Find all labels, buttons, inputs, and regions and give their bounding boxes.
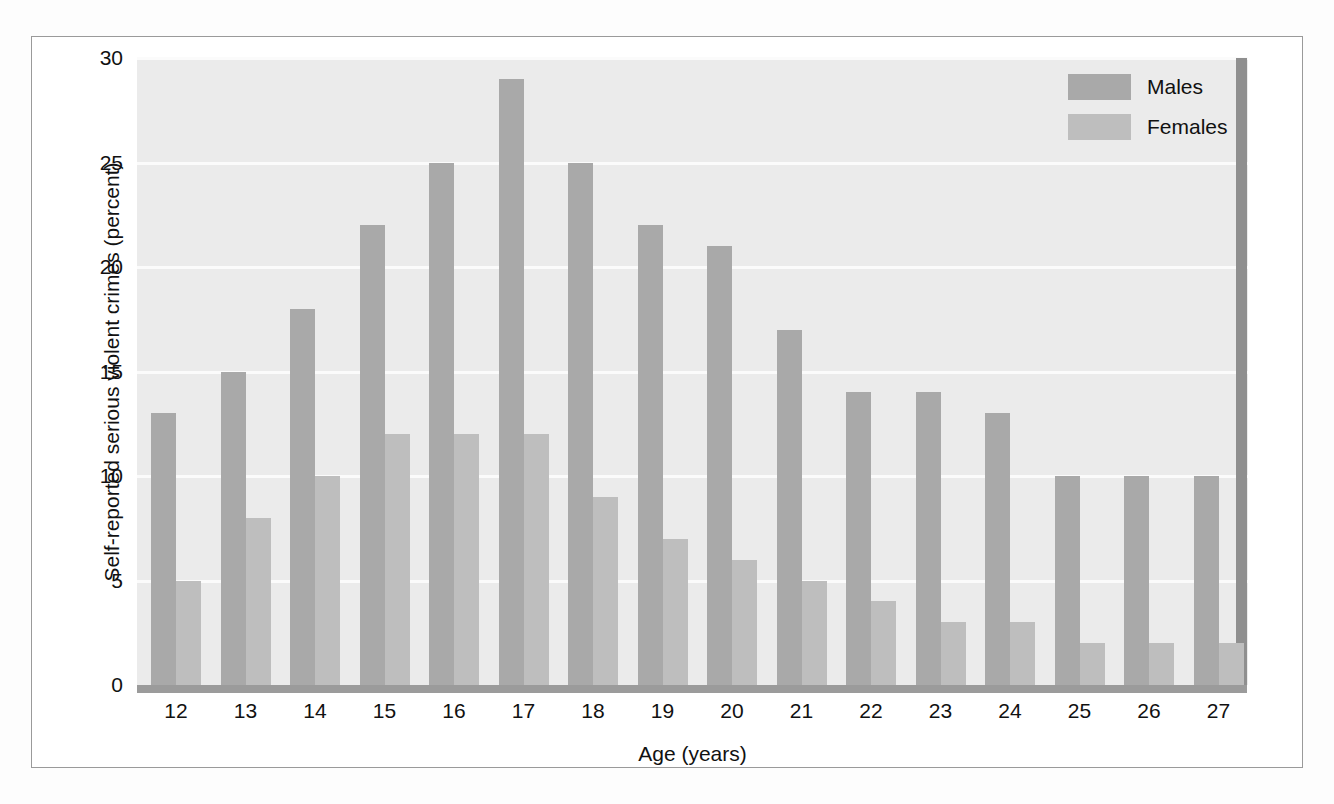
bar-females-age-27 bbox=[1219, 643, 1244, 685]
x-tick-label-20: 20 bbox=[697, 700, 767, 721]
x-tick-label-12: 12 bbox=[141, 700, 211, 721]
bar-males-age-26 bbox=[1124, 476, 1149, 685]
x-tick-label-14: 14 bbox=[280, 700, 350, 721]
x-tick-label-22: 22 bbox=[836, 700, 906, 721]
bar-group-age-15 bbox=[360, 58, 410, 685]
bar-group-age-17 bbox=[499, 58, 549, 685]
bar-males-age-15 bbox=[360, 225, 385, 685]
bar-females-age-15 bbox=[385, 434, 410, 685]
bar-females-age-21 bbox=[802, 581, 827, 686]
x-tick-label-15: 15 bbox=[350, 700, 420, 721]
bar-males-age-19 bbox=[638, 225, 663, 685]
bar-group-age-22 bbox=[846, 58, 896, 685]
bar-males-age-27 bbox=[1194, 476, 1219, 685]
bar-males-age-17 bbox=[499, 79, 524, 685]
x-tick-label-26: 26 bbox=[1114, 700, 1184, 721]
bar-group-age-19 bbox=[638, 58, 688, 685]
bar-males-age-22 bbox=[846, 392, 871, 685]
legend-swatch-females bbox=[1068, 114, 1131, 140]
x-tick-label-16: 16 bbox=[419, 700, 489, 721]
bar-group-age-18 bbox=[568, 58, 618, 685]
bar-males-age-24 bbox=[985, 413, 1010, 685]
bar-males-age-18 bbox=[568, 163, 593, 686]
bar-group-age-24 bbox=[985, 58, 1035, 685]
x-axis-label: Age (years) bbox=[137, 742, 1248, 766]
bar-females-age-23 bbox=[941, 622, 966, 685]
bar-males-age-25 bbox=[1055, 476, 1080, 685]
bar-males-age-12 bbox=[151, 413, 176, 685]
x-tick-label-23: 23 bbox=[906, 700, 976, 721]
x-axis-ticks: 12131415161718192021222324252627 bbox=[137, 700, 1248, 730]
chart-legend: MalesFemales bbox=[1068, 74, 1238, 154]
bar-males-age-13 bbox=[221, 372, 246, 686]
bar-females-age-14 bbox=[315, 476, 340, 685]
bar-males-age-23 bbox=[916, 392, 941, 685]
bar-females-age-26 bbox=[1149, 643, 1174, 685]
legend-swatch-males bbox=[1068, 74, 1131, 100]
bar-group-age-16 bbox=[429, 58, 479, 685]
x-tick-label-19: 19 bbox=[628, 700, 698, 721]
legend-item-males: Males bbox=[1068, 74, 1238, 100]
bar-males-age-14 bbox=[290, 309, 315, 685]
bar-group-age-13 bbox=[221, 58, 271, 685]
bar-males-age-20 bbox=[707, 246, 732, 685]
bar-females-age-13 bbox=[246, 518, 271, 685]
x-tick-label-25: 25 bbox=[1045, 700, 1115, 721]
bar-females-age-16 bbox=[454, 434, 479, 685]
bar-females-age-24 bbox=[1010, 622, 1035, 685]
bar-females-age-20 bbox=[732, 560, 757, 685]
plot-baseline bbox=[137, 685, 1247, 693]
legend-label-females: Females bbox=[1147, 115, 1228, 139]
bar-group-age-20 bbox=[707, 58, 757, 685]
legend-item-females: Females bbox=[1068, 114, 1238, 140]
bar-females-age-12 bbox=[176, 581, 201, 686]
bar-females-age-25 bbox=[1080, 643, 1105, 685]
bar-group-age-23 bbox=[916, 58, 966, 685]
x-tick-label-27: 27 bbox=[1184, 700, 1254, 721]
bar-group-age-21 bbox=[777, 58, 827, 685]
y-axis-label-wrapper: Self-reported serious violent crimes (pe… bbox=[58, 60, 88, 680]
bar-females-age-17 bbox=[524, 434, 549, 685]
bar-females-age-19 bbox=[663, 539, 688, 685]
y-axis-label: Self-reported serious violent crimes (pe… bbox=[100, 72, 124, 672]
x-tick-label-21: 21 bbox=[767, 700, 837, 721]
bar-group-age-12 bbox=[151, 58, 201, 685]
bar-group-age-14 bbox=[290, 58, 340, 685]
x-tick-label-18: 18 bbox=[558, 700, 628, 721]
figure-page: 051015202530 Self-reported serious viole… bbox=[0, 0, 1334, 804]
bar-females-age-18 bbox=[593, 497, 618, 685]
bar-females-age-22 bbox=[871, 601, 896, 685]
legend-label-males: Males bbox=[1147, 75, 1203, 99]
bar-males-age-21 bbox=[777, 330, 802, 685]
x-tick-label-24: 24 bbox=[975, 700, 1045, 721]
x-tick-label-13: 13 bbox=[211, 700, 281, 721]
x-tick-label-17: 17 bbox=[489, 700, 559, 721]
bar-males-age-16 bbox=[429, 163, 454, 686]
